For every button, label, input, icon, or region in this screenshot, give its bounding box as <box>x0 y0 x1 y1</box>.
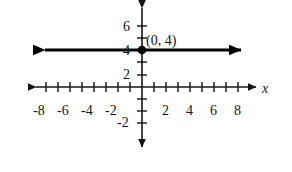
x-tick-label-neg-2: -2 <box>105 104 117 118</box>
point-marker-dot <box>138 46 147 55</box>
y-tick-label-2: 2 <box>123 68 130 82</box>
x-tick-label-4: 4 <box>186 104 193 118</box>
y-tick-label-neg-2: -2 <box>117 116 129 130</box>
x-axis <box>36 82 256 92</box>
x-tick-label-2: 2 <box>162 104 169 118</box>
x-tick-label-neg-8: -8 <box>33 104 45 118</box>
y-axis <box>137 8 147 147</box>
y-tick-label-6: 6 <box>123 20 130 34</box>
plotted-point-0-4 <box>138 46 147 55</box>
x-tick-label-8: 8 <box>234 104 241 118</box>
coordinate-plane-svg <box>0 0 292 172</box>
x-tick-label-neg-6: -6 <box>57 104 69 118</box>
point-coordinate-label: (0, 4) <box>146 34 176 48</box>
graph-figure: 6 4 2 -2 -8 -6 -4 -2 2 4 6 8 x (0, 4) <box>0 0 292 172</box>
x-axis-label: x <box>262 82 268 96</box>
y-tick-label-4: 4 <box>123 44 130 58</box>
x-tick-label-6: 6 <box>210 104 217 118</box>
x-tick-label-neg-4: -4 <box>81 104 93 118</box>
